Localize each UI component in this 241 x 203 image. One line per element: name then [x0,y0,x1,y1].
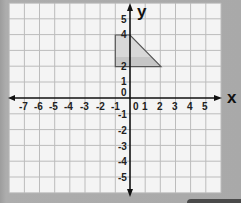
coordinate-plane: y x -7 -6 -5 -4 -3 -2 -1 0 1 2 3 4 5 5 4… [0,0,241,203]
svg-text:-5: -5 [49,101,58,112]
svg-text:-2: -2 [118,125,127,136]
svg-text:-2: -2 [96,101,105,112]
svg-text:-3: -3 [80,101,89,112]
svg-text:1: 1 [121,76,127,87]
svg-text:2: 2 [157,101,163,112]
svg-text:-3: -3 [118,141,127,152]
svg-text:4: 4 [121,29,127,40]
svg-text:-6: -6 [34,101,43,112]
svg-text:4: 4 [187,101,193,112]
x-tick-labels: -7 -6 -5 -4 -3 -2 -1 0 1 2 3 4 5 [19,101,208,112]
page-edge-tab [187,199,241,203]
svg-text:2: 2 [121,61,127,72]
svg-text:3: 3 [172,101,178,112]
svg-text:1: 1 [142,101,148,112]
svg-text:-1: -1 [118,109,127,120]
y-axis [127,3,133,197]
svg-text:-4: -4 [118,156,127,167]
y-axis-up-arrow-icon [127,3,133,11]
svg-text:0: 0 [133,101,139,112]
y-axis-label: y [137,2,147,21]
page-background: y x -7 -6 -5 -4 -3 -2 -1 0 1 2 3 4 5 5 4… [0,0,241,203]
svg-text:-4: -4 [64,101,73,112]
x-axis-label: x [227,88,237,107]
svg-text:5: 5 [202,101,208,112]
svg-text:-7: -7 [19,101,28,112]
svg-text:0: 0 [121,87,127,98]
svg-text:5: 5 [121,14,127,25]
svg-text:-5: -5 [118,172,127,183]
